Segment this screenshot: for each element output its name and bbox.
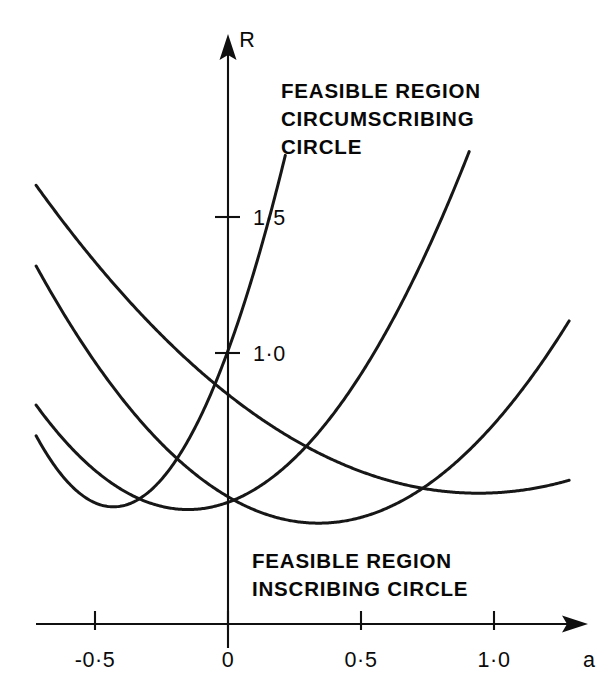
lower-region-annotation: FEASIBLE REGION INSCRIBING CIRCLE — [252, 549, 468, 600]
upper-region-line-3: CIRCLE — [281, 135, 362, 158]
x-axis-label: a — [583, 648, 595, 672]
x-tick-label-0: 0 — [222, 648, 235, 672]
upper-region-line-1: FEASIBLE REGION — [281, 79, 481, 102]
x-tick-label--0.5: -0·5 — [75, 648, 116, 672]
upper-region-line-2: CIRCUMSCRIBING — [281, 107, 474, 130]
x-tick-label-1.0: 1·0 — [478, 648, 511, 672]
chart-canvas: 1·5 1·0 -0·5 0 0·5 1·0 R a FEASIBLE REGI… — [0, 0, 613, 692]
lower-region-line-1: FEASIBLE REGION — [252, 549, 452, 572]
y-tick-label-1.5: 1·5 — [253, 206, 286, 230]
x-tick-label-0.5: 0·5 — [345, 648, 378, 672]
chart-figure: 1·5 1·0 -0·5 0 0·5 1·0 R a FEASIBLE REGI… — [0, 0, 613, 692]
lower-region-line-2: INSCRIBING CIRCLE — [252, 577, 468, 600]
y-axis-label: R — [239, 28, 255, 52]
curve-4-path — [36, 185, 569, 493]
x-axis — [36, 611, 588, 633]
upper-region-annotation: FEASIBLE REGION CIRCUMSCRIBING CIRCLE — [281, 79, 481, 158]
curve-group — [36, 152, 569, 524]
y-tick-label-1.0: 1·0 — [253, 342, 286, 366]
y-axis — [215, 34, 240, 648]
